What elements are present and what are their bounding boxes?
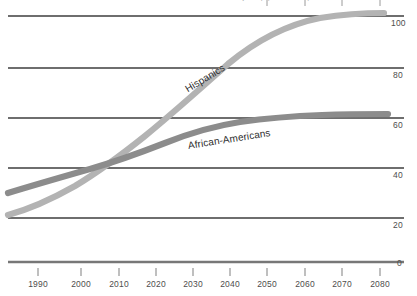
chart-plot-area (0, 0, 417, 296)
xtick-label-2060: 2060 (295, 279, 315, 289)
chart-container: Projected population of Hispanics and Af… (0, 0, 417, 296)
series-line-african-americans (8, 114, 388, 193)
xtick-label-2050: 2050 (257, 279, 277, 289)
y-axis-top-ticks (267, 0, 380, 6)
ytick-label-80: 80 (393, 70, 403, 80)
xtick-label-2020: 2020 (146, 279, 166, 289)
xtick-label-2010: 2010 (109, 279, 129, 289)
xtick-label-2080: 2080 (370, 279, 390, 289)
xtick-label-2030: 2030 (183, 279, 203, 289)
ytick-label-20: 20 (393, 220, 403, 230)
ytick-label-40: 40 (393, 170, 403, 180)
xtick-label-2040: 2040 (220, 279, 240, 289)
xtick-label-2070: 2070 (332, 279, 352, 289)
x-axis-ticks (38, 268, 380, 276)
ytick-label-60: 60 (393, 120, 403, 130)
ytick-label-100: 100 (391, 18, 406, 28)
xtick-label-1990: 1990 (28, 279, 48, 289)
ytick-label-0: 0 (397, 258, 402, 268)
xtick-label-2000: 2000 (71, 279, 91, 289)
